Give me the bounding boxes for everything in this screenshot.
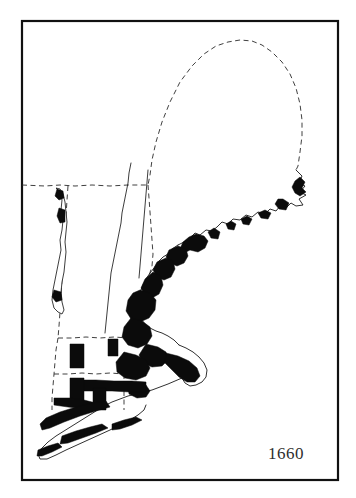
map-canvas: 1660 bbox=[0, 0, 356, 498]
historical-map-figure: 1660 bbox=[0, 0, 356, 498]
upper-connecticut-valley-block bbox=[108, 339, 118, 356]
windsor-springfield-block bbox=[70, 344, 84, 368]
year-label: 1660 bbox=[268, 444, 304, 463]
connecticut-shore-settlement-band bbox=[78, 380, 146, 392]
